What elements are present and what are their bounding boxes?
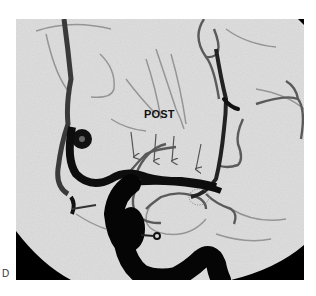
angiogram-image: POST	[16, 19, 304, 280]
post-annotation: POST	[144, 108, 175, 120]
panel-letter: D	[2, 268, 9, 279]
